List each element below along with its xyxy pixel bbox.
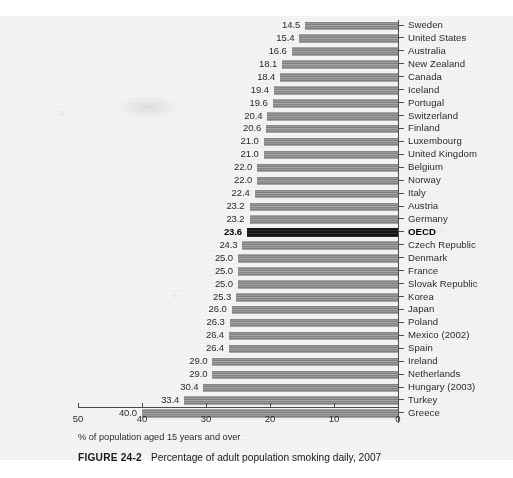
bar-value-label: 14.5 [240, 19, 300, 32]
bar-fill [238, 267, 398, 276]
bar-row: 25.0Slovak Republic [0, 278, 513, 291]
category-label: Slovak Republic [408, 278, 478, 291]
category-label: Denmark [408, 252, 447, 265]
bar-value-label: 23.6 [182, 226, 242, 239]
bar-row: 20.6Finland [0, 122, 513, 135]
bar-fill [212, 371, 398, 380]
bar-value-label: 23.2 [185, 200, 245, 213]
category-label: United States [408, 32, 466, 45]
figure-caption-text: Percentage of adult population smoking d… [151, 452, 381, 463]
bar-row: 25.3Korea [0, 291, 513, 304]
category-label: Mexico (2002) [408, 329, 469, 342]
bar [292, 47, 398, 56]
bar [212, 358, 398, 367]
category-tick [399, 180, 404, 181]
category-label: Hungary (2003) [408, 381, 475, 394]
value-axis-tick [270, 403, 271, 407]
bar [236, 293, 398, 302]
bar [229, 332, 398, 341]
category-label: Czech Republic [408, 239, 476, 252]
bar-fill [250, 215, 398, 224]
category-tick [399, 206, 404, 207]
category-label: Korea [408, 291, 434, 304]
bar-row: 20.4Switzerland [0, 110, 513, 123]
bar-value-label: 26.0 [167, 303, 227, 316]
axis-note: % of population aged 15 years and over [78, 432, 240, 442]
bar-value-label: 21.0 [199, 135, 259, 148]
bar-fill [292, 47, 398, 56]
value-axis-tick-label: 10 [319, 413, 349, 424]
bar-value-label: 33.4 [119, 394, 179, 407]
bar [238, 254, 398, 263]
bar [238, 267, 398, 276]
bar-row: 19.6Portugal [0, 97, 513, 110]
bar [230, 319, 398, 328]
bar [266, 125, 398, 134]
bar-row: 21.0United Kingdom [0, 148, 513, 161]
category-tick [399, 89, 404, 90]
bar-fill [247, 228, 398, 237]
value-axis-tick [398, 403, 399, 407]
bar-value-label: 16.6 [227, 45, 287, 58]
value-axis-tick-label: 0 [383, 413, 413, 424]
category-tick [399, 322, 404, 323]
category-label: Switzerland [408, 110, 458, 123]
category-tick [399, 399, 404, 400]
category-label: United Kingdom [408, 148, 477, 161]
bar-fill [203, 384, 398, 393]
bar-fill [299, 34, 398, 43]
bar-fill [184, 396, 398, 405]
category-axis-line [398, 20, 399, 423]
category-tick [399, 257, 404, 258]
category-label: Italy [408, 187, 426, 200]
bar-fill [242, 241, 398, 250]
bar-fill [232, 306, 398, 315]
category-label: Ireland [408, 355, 438, 368]
category-tick [399, 218, 404, 219]
bar-value-label: 20.6 [201, 122, 261, 135]
bar-value-label: 26.4 [164, 342, 224, 355]
bar-value-label: 25.3 [171, 291, 231, 304]
bar-row: 26.3Poland [0, 316, 513, 329]
bar-value-label: 19.6 [208, 97, 268, 110]
bar-row: 21.0Luxembourg [0, 135, 513, 148]
bar-row: 23.2Germany [0, 213, 513, 226]
category-label: Australia [408, 45, 446, 58]
bar [184, 396, 398, 405]
bar-fill [280, 73, 398, 82]
category-label: Poland [408, 316, 438, 329]
bar-fill [238, 254, 398, 263]
category-label: Japan [408, 303, 434, 316]
bar-fill [230, 319, 398, 328]
bar-row: 22.0Norway [0, 174, 513, 187]
bar [203, 384, 398, 393]
category-tick [399, 296, 404, 297]
category-tick [399, 374, 404, 375]
bar-value-label: 24.3 [177, 239, 237, 252]
bar [305, 22, 398, 31]
category-tick [399, 361, 404, 362]
bar-row: 15.4United States [0, 32, 513, 45]
bar-fill [273, 99, 398, 108]
bar-fill [264, 138, 398, 147]
category-label: Canada [408, 71, 442, 84]
value-axis-tick-label: 20 [255, 413, 285, 424]
category-tick [399, 37, 404, 38]
bar-value-label: 20.4 [202, 110, 262, 123]
value-axis-tick [334, 403, 335, 407]
bar [229, 345, 398, 354]
category-label: Luxembourg [408, 135, 462, 148]
bar-fill [257, 164, 398, 173]
bar-fill [257, 177, 398, 186]
bar [242, 241, 398, 250]
bar-row: 14.5Sweden [0, 19, 513, 32]
bar-value-label: 22.4 [190, 187, 250, 200]
category-tick [399, 348, 404, 349]
bar-value-label: 29.0 [147, 355, 207, 368]
category-label: Sweden [408, 19, 443, 32]
category-label: Austria [408, 200, 438, 213]
bar-row: 22.0Belgium [0, 161, 513, 174]
category-tick [399, 128, 404, 129]
category-tick [399, 50, 404, 51]
category-label: Germany [408, 213, 448, 226]
